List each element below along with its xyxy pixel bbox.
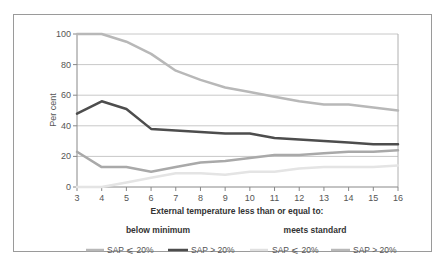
series-lines — [77, 34, 398, 187]
legend-label: SAP ⩽ 20% — [107, 245, 154, 255]
gridlines — [77, 34, 398, 156]
y-tick-label: 80 — [61, 60, 71, 70]
x-tick-label: 4 — [99, 193, 104, 203]
x-tick-label: 12 — [294, 193, 304, 203]
y-tick-label: 100 — [56, 29, 71, 39]
legend-group-below-minimum: below minimum — [126, 225, 191, 235]
x-tick-label: 5 — [124, 193, 129, 203]
y-tick-label: 0 — [66, 182, 71, 192]
y-axis-label: Per cent — [48, 93, 58, 127]
legend-item-meets-sap-gt-20: SAP > 20% — [331, 245, 397, 255]
legend-label: SAP > 20% — [353, 245, 397, 255]
series-line — [77, 166, 398, 187]
x-tick-label: 6 — [149, 193, 154, 203]
legend-item-meets-sap-le-20: SAP ⩽ 20% — [250, 245, 319, 255]
series-line — [77, 150, 398, 171]
legend-group-meets-standard: meets standard — [284, 225, 347, 235]
x-tick-label: 16 — [393, 193, 403, 203]
legend-item-below-sap-le-20: SAP ⩽ 20% — [86, 245, 154, 255]
line-chart: 345678910111213141516 020406080100 Per c… — [0, 0, 441, 277]
legend-item-below-sap-gt-20: SAP > 20% — [168, 245, 235, 255]
y-tick-label: 60 — [61, 90, 71, 100]
y-tick-label: 20 — [61, 151, 71, 161]
x-tick-label: 8 — [198, 193, 203, 203]
legend-label: SAP > 20% — [191, 245, 235, 255]
x-tick-labels: 345678910111213141516 — [74, 193, 403, 203]
series-line — [77, 101, 398, 144]
x-tick-label: 11 — [270, 193, 279, 203]
x-tick-label: 13 — [319, 193, 329, 203]
x-tick-label: 15 — [368, 193, 378, 203]
x-tick-label: 9 — [223, 193, 228, 203]
x-tick-label: 14 — [344, 193, 354, 203]
series-line — [77, 34, 398, 111]
x-tick-label: 7 — [173, 193, 178, 203]
y-tick-labels: 020406080100 — [56, 29, 71, 192]
x-tick-label: 10 — [245, 193, 255, 203]
x-tick-label: 3 — [74, 193, 79, 203]
x-axis-label: External temperature less than or equal … — [151, 206, 324, 216]
y-tick-label: 40 — [61, 121, 71, 131]
legend: SAP ⩽ 20% SAP > 20% SAP ⩽ 20% SAP > 20% — [86, 245, 397, 255]
legend-label: SAP ⩽ 20% — [272, 245, 319, 255]
